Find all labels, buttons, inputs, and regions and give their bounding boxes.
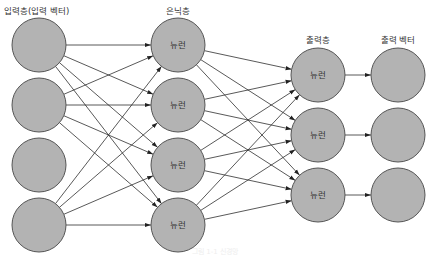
input-node [12,198,66,252]
output-vector-node [371,108,425,162]
hidden-node: 뉴런 [151,138,205,192]
node-label: 뉴런 [310,130,326,140]
input-node [12,138,66,192]
figure-caption: 그림 1-1 신경망 [192,247,239,256]
output-vector-node [371,168,425,222]
node-label: 뉴런 [310,190,326,200]
connection-arrow [201,90,296,151]
output-node: 뉴런 [291,48,345,102]
node-label: 뉴런 [170,220,186,230]
node-circle [12,138,66,192]
connection-arrow [64,176,153,215]
node-circle [12,198,66,252]
node-circle [371,168,425,222]
output-vector-node [371,48,425,102]
hidden-layer-label: 은닉층 [166,6,190,16]
input-layer-label: 입력층(입력 벡터) [4,6,69,16]
output-node: 뉴런 [291,108,345,162]
input-node [12,78,66,132]
hidden-node: 뉴런 [151,198,205,252]
neural-network-diagram: 뉴런뉴런뉴런뉴런뉴런뉴런뉴런 입력층(입력 벡터)은닉층출력층출력 벡터 그림 … [0,0,431,259]
node-label: 뉴런 [170,160,186,170]
connection-arrow [201,150,296,211]
input-node [12,18,66,72]
node-circle [371,108,425,162]
hidden-node: 뉴런 [151,18,205,72]
connection-arrow [196,95,299,206]
node-label: 뉴런 [170,100,186,110]
hidden-node: 뉴런 [151,78,205,132]
connection-arrow [204,201,291,220]
output-vector-layer-label: 출력 벡터 [381,35,416,45]
output-node: 뉴런 [291,168,345,222]
node-label: 뉴런 [310,70,326,80]
node-circle [12,78,66,132]
connection-arrow [204,81,291,100]
output-layer-label: 출력층 [306,35,330,45]
node-circle [12,18,66,72]
connection-arrow [204,51,291,70]
node-circle [371,48,425,102]
node-label: 뉴런 [170,40,186,50]
